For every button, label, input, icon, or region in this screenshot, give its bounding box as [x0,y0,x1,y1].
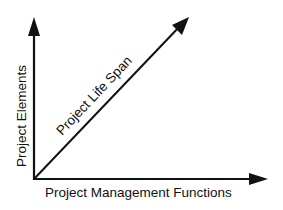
vertical-axis-label: Project Elements [14,65,29,167]
diagonal-axis [34,17,189,179]
horizontal-axis-label: Project Management Functions [45,185,232,200]
horizontal-arrowhead-icon [249,173,268,185]
diagram-svg: Project Elements Project Management Func… [0,0,283,210]
vertical-arrowhead-icon [28,17,40,36]
vertical-axis [28,17,40,180]
horizontal-axis [33,173,268,185]
diagram-canvas: Project Elements Project Management Func… [0,0,283,210]
diagonal-axis-label: Project Life Span [53,53,135,138]
